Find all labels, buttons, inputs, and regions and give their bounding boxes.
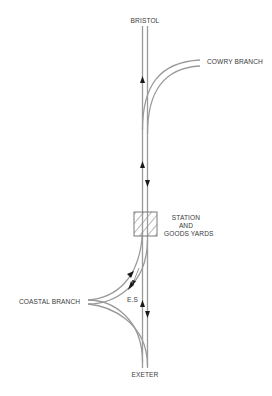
cowry-branch-track [143,60,201,134]
arrow-up-icon [140,76,145,83]
label-exeter: EXETER [128,371,162,379]
main-line-track [143,26,148,368]
direction-arrows [127,76,150,318]
label-station-line3: GOODS YARDS [164,230,208,238]
label-station-line2: AND [164,222,208,230]
coastal-branch-track [88,232,148,366]
label-cowry-branch: COWRY BRANCH [207,58,263,66]
label-station-line1: STATION [164,214,208,222]
station-box [134,212,157,236]
arrow-up-icon [140,300,145,307]
arrow-up-icon [140,161,145,168]
arrow-up-right-icon [127,271,134,278]
label-es: E.S [127,296,138,304]
label-coastal-branch: COASTAL BRANCH [19,298,80,306]
arrow-down-icon [145,180,150,187]
label-bristol: BRISTOL [128,17,162,25]
arrow-down-icon [145,311,150,318]
